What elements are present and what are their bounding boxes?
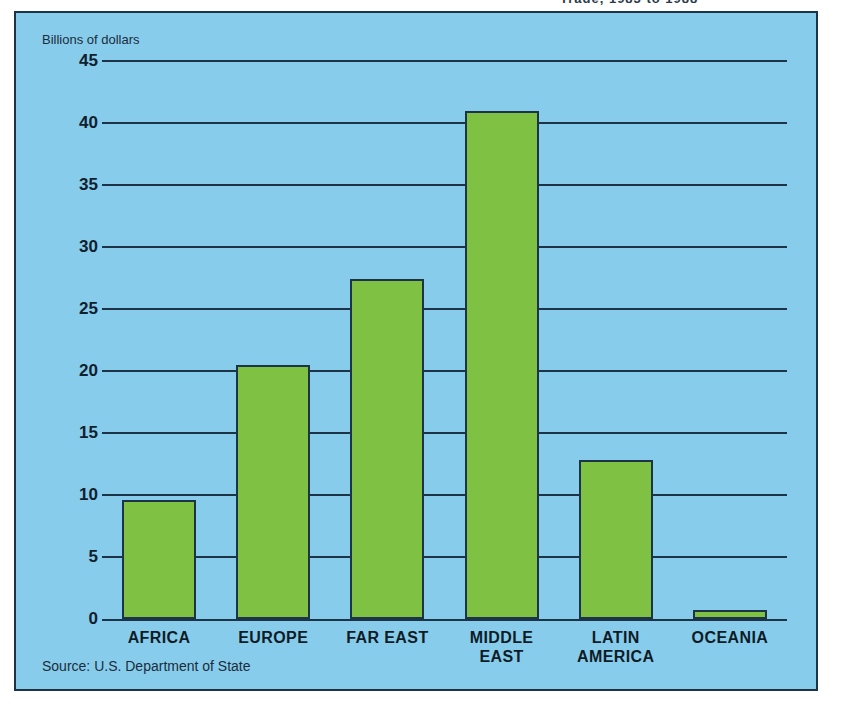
plot-area: 051015202530354045 AFRICAEUROPEFAR EASTM… — [16, 13, 816, 689]
category-label-line: AMERICA — [559, 648, 673, 667]
category-label: FAR EAST — [330, 629, 444, 648]
category-label: AFRICA — [102, 629, 216, 648]
top-cutoff-strip: Trade, 1983 to 1988 — [0, 0, 846, 9]
chart-figure: Billions of dollars 051015202530354045 A… — [14, 11, 818, 691]
y-axis-tick-label: 35 — [54, 176, 98, 193]
y-axis-tick-label: 15 — [54, 424, 98, 441]
category-label-line: AFRICA — [102, 629, 216, 648]
y-axis-tick-label: 45 — [54, 52, 98, 69]
x-axis-line — [102, 619, 787, 621]
gridline — [102, 370, 787, 372]
y-axis-tick-label: 0 — [54, 610, 98, 627]
category-label-line: EAST — [445, 648, 559, 667]
category-label: OCEANIA — [673, 629, 787, 648]
category-label-line: MIDDLE — [445, 629, 559, 648]
gridline — [102, 60, 787, 62]
source-note: Source: U.S. Department of State — [42, 658, 251, 674]
gridline — [102, 184, 787, 186]
category-label-line: EUROPE — [216, 629, 330, 648]
gridline — [102, 246, 787, 248]
y-axis-tick-label: 5 — [54, 548, 98, 565]
y-axis-tick-label: 10 — [54, 486, 98, 503]
gridline — [102, 432, 787, 434]
y-axis-tick-label: 25 — [54, 300, 98, 317]
bar — [236, 365, 310, 619]
y-axis-tick-label: 40 — [54, 114, 98, 131]
y-axis-tick-label: 30 — [54, 238, 98, 255]
gridline — [102, 494, 787, 496]
gridline — [102, 122, 787, 124]
y-axis-tick-label: 20 — [54, 362, 98, 379]
category-label: MIDDLEEAST — [445, 629, 559, 666]
top-cutoff-text: Trade, 1983 to 1988 — [560, 0, 698, 6]
category-label-line: LATIN — [559, 629, 673, 648]
bar — [579, 460, 653, 619]
category-label: EUROPE — [216, 629, 330, 648]
category-label-line: OCEANIA — [673, 629, 787, 648]
category-label: LATINAMERICA — [559, 629, 673, 666]
gridline — [102, 308, 787, 310]
category-label-line: FAR EAST — [330, 629, 444, 648]
bar — [350, 279, 424, 619]
gridline — [102, 556, 787, 558]
bar — [693, 610, 767, 619]
bar — [465, 111, 539, 619]
bar — [122, 500, 196, 619]
